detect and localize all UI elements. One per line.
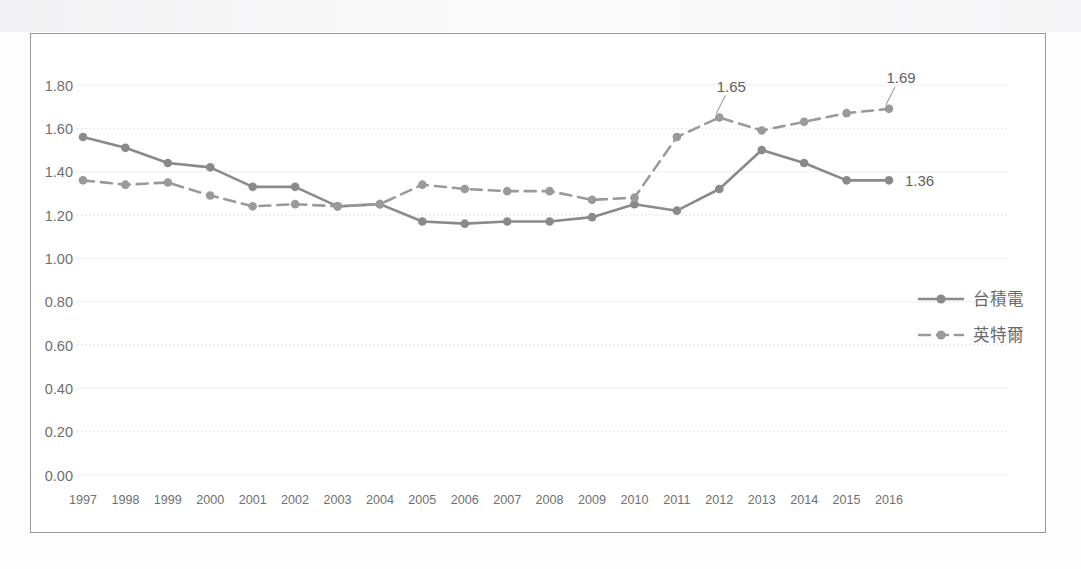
data-point-2 — [291, 200, 300, 209]
legend-marker-1 — [936, 294, 945, 303]
data-point-1 — [842, 176, 851, 185]
data-point-1 — [757, 146, 766, 155]
chart-canvas: 1.801.601.401.201.000.800.600.400.200.00… — [31, 34, 1047, 534]
data-point-2 — [333, 202, 342, 211]
series-line-2 — [83, 109, 889, 206]
data-point-2 — [545, 187, 554, 196]
y-axis-tick-label: 1.60 — [45, 121, 73, 137]
data-point-2 — [418, 180, 427, 189]
data-point-2 — [164, 178, 173, 187]
x-axis-tick-label: 2016 — [875, 493, 903, 507]
data-point-2 — [885, 105, 894, 114]
y-axis-tick-label: 1.20 — [45, 208, 73, 224]
data-point-1 — [800, 159, 809, 168]
x-axis-tick-label: 2001 — [239, 493, 267, 507]
data-point-2 — [503, 187, 512, 196]
x-axis-tick-label: 2010 — [620, 493, 648, 507]
y-axis-tick-label: 0.80 — [45, 294, 73, 310]
data-point-2 — [121, 180, 130, 189]
data-point-1 — [588, 213, 597, 222]
x-axis-tick-label: 2011 — [663, 493, 690, 507]
data-label: 1.69 — [886, 69, 915, 86]
annotation-leader-line — [716, 96, 725, 114]
x-axis-tick-label: 2015 — [833, 493, 861, 507]
x-axis-tick-label: 2005 — [408, 493, 436, 507]
series-line-1 — [83, 137, 889, 224]
data-label: 1.65 — [717, 78, 746, 95]
y-axis-tick-label: 0.00 — [45, 468, 73, 484]
data-point-2 — [460, 185, 469, 194]
x-axis-tick-label: 2003 — [324, 493, 352, 507]
data-point-1 — [673, 206, 682, 215]
data-label: 1.36 — [905, 172, 934, 189]
data-point-2 — [630, 193, 639, 202]
data-point-2 — [715, 113, 724, 122]
data-point-1 — [885, 176, 894, 185]
data-point-1 — [715, 185, 724, 194]
data-point-2 — [248, 202, 257, 211]
data-point-2 — [588, 196, 597, 205]
data-point-1 — [206, 163, 215, 172]
x-axis-tick-label: 2013 — [748, 493, 776, 507]
x-axis-tick-label: 1998 — [111, 493, 139, 507]
data-point-1 — [460, 219, 469, 228]
data-point-1 — [503, 217, 512, 226]
x-axis-tick-label: 1999 — [154, 493, 182, 507]
data-point-2 — [842, 109, 851, 118]
x-axis-tick-label: 2007 — [493, 493, 521, 507]
data-point-2 — [206, 191, 215, 200]
legend-label-1: 台積電 — [973, 290, 1024, 308]
data-point-1 — [164, 159, 173, 168]
data-point-2 — [757, 126, 766, 135]
data-point-1 — [121, 144, 130, 153]
y-axis-tick-label: 1.00 — [45, 251, 73, 267]
x-axis-tick-label: 2012 — [705, 493, 733, 507]
x-axis-tick-label: 2008 — [536, 493, 564, 507]
scan-noise-band — [0, 0, 1081, 32]
legend-label-2: 英特爾 — [973, 326, 1024, 344]
data-point-1 — [291, 183, 300, 192]
data-point-1 — [79, 133, 88, 142]
x-axis-tick-label: 2004 — [366, 493, 394, 507]
y-axis-tick-label: 1.80 — [45, 78, 73, 94]
chart-frame: 1.801.601.401.201.000.800.600.400.200.00… — [30, 33, 1046, 533]
data-point-1 — [248, 183, 257, 192]
y-axis-tick-label: 0.60 — [45, 338, 73, 354]
x-axis-tick-label: 1997 — [69, 493, 97, 507]
legend-marker-2 — [936, 330, 945, 339]
x-axis-tick-label: 2000 — [196, 493, 224, 507]
y-axis-tick-label: 1.40 — [45, 164, 73, 180]
x-axis-tick-label: 2002 — [281, 493, 309, 507]
data-point-2 — [800, 118, 809, 127]
line-chart: 1.801.601.401.201.000.800.600.400.200.00… — [31, 34, 1047, 534]
y-axis-tick-label: 0.20 — [45, 424, 73, 440]
data-point-1 — [418, 217, 427, 226]
x-axis-tick-label: 2009 — [578, 493, 606, 507]
data-point-2 — [79, 176, 88, 185]
data-point-2 — [376, 200, 385, 209]
x-axis-tick-label: 2014 — [790, 493, 818, 507]
x-axis-tick-label: 2006 — [451, 493, 479, 507]
data-point-1 — [545, 217, 554, 226]
data-point-2 — [673, 133, 682, 142]
y-axis-tick-label: 0.40 — [45, 381, 73, 397]
annotation-leader-line — [886, 87, 895, 105]
